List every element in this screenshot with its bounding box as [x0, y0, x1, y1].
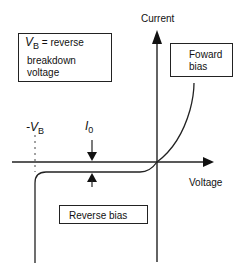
iv-curve [35, 83, 194, 263]
voltage-axis-label: Voltage [189, 177, 222, 188]
neg-vb-label: -VB [26, 122, 44, 137]
forward-bias-line2: bias [189, 61, 207, 72]
vb-symbol: V [25, 35, 33, 49]
i0-arrow-down-icon [87, 152, 97, 161]
current-axis-label: Current [141, 13, 174, 24]
voltage-axis-arrow-icon [203, 157, 214, 167]
legend-line1: = reverse [39, 37, 84, 48]
legend-line2: breakdown [27, 55, 76, 66]
reverse-bias-box: Reverse bias [59, 205, 148, 224]
forward-bias-box: Foward bias [170, 43, 233, 77]
legend-line3: voltage [27, 67, 59, 78]
i0-label: I0 [85, 121, 93, 136]
reverse-bias-label: Reverse bias [69, 210, 127, 221]
current-axis-arrow-icon [152, 30, 162, 44]
forward-bias-line1: Foward [189, 49, 222, 60]
breakdown-voltage-legend: VB = reverse breakdown voltage [18, 33, 112, 82]
